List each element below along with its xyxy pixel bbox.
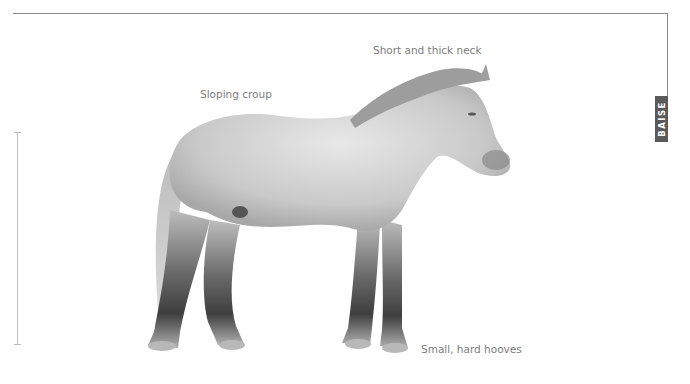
- breed-tab-label: BAISE: [657, 101, 667, 137]
- frame-right-line: [667, 13, 668, 98]
- frame-top-line: [13, 13, 667, 14]
- breed-tab: BAISE: [655, 96, 668, 142]
- scale-tick-top: [14, 132, 21, 133]
- scale-tick-bottom: [14, 344, 21, 345]
- annotation-neck: Short and thick neck: [373, 44, 481, 56]
- height-scale-bar: [17, 132, 18, 345]
- horse-illustration: [140, 60, 560, 360]
